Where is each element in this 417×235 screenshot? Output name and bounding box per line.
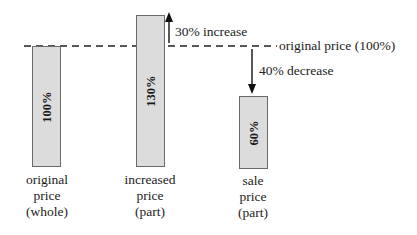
caption-line: price — [208, 189, 298, 205]
caption-line: (part) — [105, 204, 195, 220]
decrease-label: 40% decrease — [259, 63, 334, 79]
caption-original-price: original price (whole) — [2, 172, 92, 220]
caption-line: sale — [208, 173, 298, 189]
bar-value-label: 100% — [39, 91, 54, 122]
caption-line: original — [2, 172, 92, 188]
bar-increased-price: 130% — [136, 15, 165, 167]
bar-sale-price: 60% — [239, 96, 268, 169]
bar-value-label: 60% — [246, 120, 261, 145]
bar-original-price: 100% — [32, 46, 61, 167]
caption-line: (part) — [208, 205, 298, 221]
caption-sale-price: sale price (part) — [208, 173, 298, 221]
increase-label: 30% increase — [175, 24, 247, 40]
caption-increased-price: increased price (part) — [105, 172, 195, 220]
caption-line: price — [2, 188, 92, 204]
caption-line: price — [105, 188, 195, 204]
reference-line-label: original price (100%) — [279, 38, 395, 54]
caption-line: (whole) — [2, 204, 92, 220]
caption-line: increased — [105, 172, 195, 188]
bar-value-label: 130% — [143, 75, 158, 106]
